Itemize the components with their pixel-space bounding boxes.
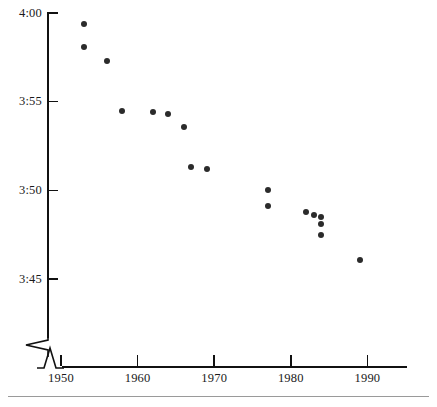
data-point [318, 214, 324, 220]
data-point [104, 58, 110, 64]
y-tick-label: 3:45 [0, 273, 42, 286]
x-tick-label: 1950 [31, 372, 91, 385]
x-tick-label: 1970 [184, 372, 244, 385]
x-tick-label: 1990 [337, 372, 397, 385]
x-tick-label: 1960 [108, 372, 168, 385]
x-tick-1990 [367, 355, 369, 366]
x-tick-1980 [290, 355, 292, 366]
data-point [318, 221, 324, 227]
y-tick-label: 3:55 [0, 95, 42, 108]
data-point [165, 111, 171, 117]
data-point [318, 232, 324, 238]
y-tick-3-45 [47, 278, 58, 280]
y-tick-4-00 [47, 12, 58, 14]
data-point [204, 166, 210, 172]
data-point [119, 108, 125, 114]
data-point [150, 109, 156, 115]
x-tick-1970 [213, 355, 215, 366]
data-point [265, 203, 271, 209]
y-tick-label: 3:50 [0, 184, 42, 197]
scatter-chart: 4:003:553:503:45 19501960197019801990 [0, 0, 437, 407]
y-tick-3-55 [47, 101, 58, 103]
data-point [188, 164, 194, 170]
x-tick-1960 [137, 355, 139, 366]
bottom-divider [8, 396, 429, 397]
y-tick-3-50 [47, 190, 58, 192]
x-axis-line [62, 366, 407, 368]
data-point [303, 209, 309, 215]
data-point [311, 212, 317, 218]
y-axis-line [47, 13, 49, 338]
y-tick-label: 4:00 [0, 7, 42, 20]
x-tick-label: 1980 [261, 372, 321, 385]
data-point [81, 21, 87, 27]
data-point [181, 124, 187, 130]
data-point [265, 187, 271, 193]
x-tick-1950 [60, 355, 62, 366]
data-point [81, 44, 87, 50]
data-point [357, 257, 363, 263]
